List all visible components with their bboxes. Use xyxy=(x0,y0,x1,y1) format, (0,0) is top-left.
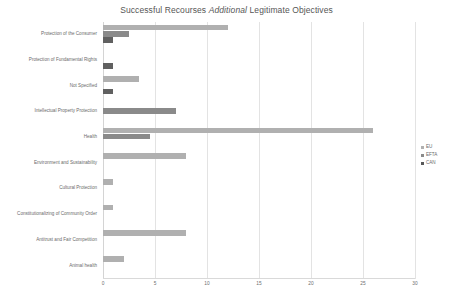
category-row: Health xyxy=(103,125,415,151)
chart-title-prefix: Successful Recourses xyxy=(120,5,209,15)
bar-efta xyxy=(103,134,150,140)
category-label: Environment and Sustainability xyxy=(34,161,97,166)
category-row: Protection of Fundamental Rights xyxy=(103,48,415,74)
chart-title: Successful Recourses Additional Legitima… xyxy=(0,5,453,15)
bar-eu xyxy=(103,179,113,185)
x-tick-label: 25 xyxy=(360,281,365,286)
x-tick-label: 15 xyxy=(256,281,261,286)
x-tick-label: 20 xyxy=(308,281,313,286)
category-row: Cultural Protection xyxy=(103,176,415,202)
bar-eu xyxy=(103,128,373,134)
category-label: Animal health xyxy=(69,264,97,269)
legend-item-can[interactable]: CAN xyxy=(421,161,437,166)
category-row: Environment and Sustainability xyxy=(103,151,415,177)
category-label: Health xyxy=(84,135,97,140)
category-row: Not Specified xyxy=(103,73,415,99)
category-label: Intellectual Property Protection xyxy=(34,109,97,114)
legend-swatch-icon-eu xyxy=(421,146,424,149)
x-tick-label: 5 xyxy=(154,281,157,286)
legend-swatch-icon-efta xyxy=(421,154,424,157)
chart-container: Successful Recourses Additional Legitima… xyxy=(0,0,453,302)
category-label: Cultural Protection xyxy=(59,186,97,191)
x-tick-label: 10 xyxy=(204,281,209,286)
chart-title-italic: Additional xyxy=(209,5,247,15)
chart-legend: EU EFTA CAN xyxy=(421,145,437,166)
category-label: Constitutionalizing of Community Order xyxy=(17,212,97,217)
bar-efta xyxy=(103,108,176,114)
bar-eu xyxy=(103,25,228,31)
legend-label-can: CAN xyxy=(426,161,436,166)
category-row: Animal health xyxy=(103,253,415,279)
bar-eu xyxy=(103,76,139,82)
legend-item-efta[interactable]: EFTA xyxy=(421,153,437,158)
bar-can xyxy=(103,63,113,69)
category-label: Antitrust and Fair Competition xyxy=(36,238,97,243)
bar-eu xyxy=(103,153,186,159)
bar-can xyxy=(103,89,113,95)
chart-title-suffix: Legitimate Objectives xyxy=(247,5,333,15)
bar-eu xyxy=(103,230,186,236)
bar-eu xyxy=(103,205,113,211)
legend-swatch-icon-can xyxy=(421,162,424,165)
bar-can xyxy=(103,37,113,43)
legend-label-efta: EFTA xyxy=(426,153,437,158)
legend-item-eu[interactable]: EU xyxy=(421,145,437,150)
category-row: Protection of the Consumer xyxy=(103,22,415,48)
legend-label-eu: EU xyxy=(426,145,432,150)
x-tick-label: 0 xyxy=(102,281,105,286)
category-row: Antitrust and Fair Competition xyxy=(103,228,415,254)
category-label: Not Specified xyxy=(70,84,97,89)
bar-eu xyxy=(103,256,124,262)
category-label: Protection of Fundamental Rights xyxy=(29,58,97,63)
x-tick-label: 30 xyxy=(412,281,417,286)
gridline-30 xyxy=(415,22,416,279)
bar-efta xyxy=(103,31,129,37)
category-row: Constitutionalizing of Community Order xyxy=(103,202,415,228)
x-axis-tick-labels: 051015202530 xyxy=(103,281,415,293)
category-row: Intellectual Property Protection xyxy=(103,99,415,125)
category-label: Protection of the Consumer xyxy=(41,32,97,37)
plot-area: Protection of the ConsumerProtection of … xyxy=(103,22,415,279)
